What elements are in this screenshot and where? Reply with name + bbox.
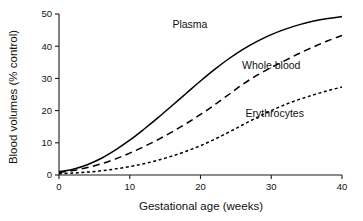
curve-erythrocytes — [59, 87, 342, 174]
x-tick-label-20: 20 — [195, 181, 206, 192]
y-tick-label-0: 0 — [47, 169, 52, 180]
series-curve-group — [59, 17, 342, 174]
y-axis-title: Blood volumes (% control) — [7, 30, 19, 164]
y-tick-group: 01020304050 — [41, 8, 59, 180]
series-label-plasma: Plasma — [172, 18, 207, 30]
blood-volumes-line-chart: Blood volumes (% control) Gestational ag… — [0, 0, 363, 221]
x-axis-title: Gestational age (weeks) — [139, 200, 263, 212]
chart-figure: Blood volumes (% control) Gestational ag… — [0, 0, 363, 221]
series-label-whole-blood: Whole blood — [242, 59, 301, 71]
x-tick-label-30: 30 — [266, 181, 277, 192]
y-tick-label-50: 50 — [41, 8, 52, 19]
x-tick-group: 010203040 — [56, 175, 347, 192]
x-tick-label-40: 40 — [337, 181, 348, 192]
y-tick-label-30: 30 — [41, 73, 52, 84]
y-tick-label-40: 40 — [41, 41, 52, 52]
series-label-erythrocytes: Erythrocytes — [246, 107, 304, 119]
x-tick-label-10: 10 — [124, 181, 135, 192]
x-tick-label-0: 0 — [56, 181, 61, 192]
y-tick-label-10: 10 — [41, 137, 52, 148]
y-tick-label-20: 20 — [41, 105, 52, 116]
curve-plasma — [59, 17, 342, 172]
curve-whole-blood — [59, 36, 342, 173]
